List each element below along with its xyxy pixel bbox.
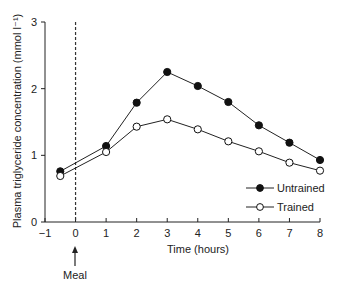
x-tick-label: 4: [195, 227, 201, 239]
legend: Untrained Trained: [246, 182, 325, 213]
x-tick-label: 7: [286, 227, 292, 239]
x-tick-label: −1: [39, 227, 52, 239]
x-tick-label: 3: [164, 227, 170, 239]
open-circle-marker: [164, 116, 171, 123]
filled-circle-icon: [257, 185, 264, 192]
open-circle-marker: [194, 126, 201, 133]
x-tick-label: 5: [225, 227, 231, 239]
series-line: [60, 72, 320, 171]
y-tick-label: 2: [31, 83, 37, 95]
y-tick-label: 0: [31, 216, 37, 228]
x-axis-label: Time (hours): [167, 243, 229, 255]
filled-circle-marker: [286, 139, 293, 146]
x-tick-label: 2: [134, 227, 140, 239]
meal-label: Meal: [63, 269, 87, 281]
filled-circle-marker: [225, 98, 232, 105]
data-series: [57, 68, 324, 179]
arrow-head-icon: [72, 246, 78, 253]
filled-circle-marker: [255, 122, 262, 129]
y-axis-ticks: 0123: [31, 16, 45, 228]
x-tick-label: 1: [103, 227, 109, 239]
filled-circle-marker: [133, 99, 140, 106]
y-tick-label: 1: [31, 149, 37, 161]
filled-circle-marker: [316, 156, 323, 163]
y-axis-label: Plasma triglyceride concentration (mmol …: [11, 14, 23, 228]
y-tick-label: 3: [31, 16, 37, 28]
line-chart: −1012345678 0123 Plasma triglyceride con…: [0, 0, 340, 298]
legend-item-trained: Trained: [246, 201, 314, 213]
filled-circle-marker: [164, 68, 171, 75]
x-tick-label: 6: [256, 227, 262, 239]
filled-circle-marker: [194, 82, 201, 89]
legend-item-untrained: Untrained: [246, 182, 325, 194]
open-circle-marker: [133, 123, 140, 130]
legend-label-trained: Trained: [277, 201, 314, 213]
open-circle-marker: [225, 138, 232, 145]
open-circle-marker: [316, 167, 323, 174]
open-circle-icon: [257, 204, 264, 211]
x-tick-label: 8: [317, 227, 323, 239]
series-untrained: [57, 68, 324, 175]
x-tick-label: 0: [72, 227, 78, 239]
series-trained: [57, 116, 324, 180]
open-circle-marker: [103, 148, 110, 155]
series-line: [60, 119, 320, 176]
legend-label-untrained: Untrained: [277, 182, 325, 194]
open-circle-marker: [255, 148, 262, 155]
x-axis-ticks: −1012345678: [39, 218, 323, 239]
meal-annotation: Meal: [63, 246, 87, 281]
open-circle-marker: [286, 159, 293, 166]
open-circle-marker: [57, 172, 64, 179]
